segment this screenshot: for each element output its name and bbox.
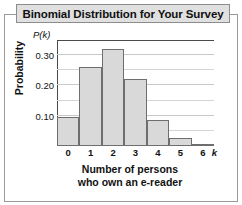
x-tick-labels: 0123456k <box>57 147 214 161</box>
binomial-distribution-figure: Binomial Distribution for Your Survey Pr… <box>0 0 242 205</box>
y-tick-0.30: 0.30 <box>20 50 54 61</box>
x-axis-label-line2: who own an e-reader <box>40 176 220 189</box>
bar-k-6 <box>192 144 214 146</box>
y-tick-0.20: 0.20 <box>20 80 54 91</box>
x-axis-label: Number of persons who own an e-reader <box>40 163 220 189</box>
x-tick-6: 6 <box>193 147 213 158</box>
y-tick-0.10: 0.10 <box>20 110 54 121</box>
chart-title-bar: Binomial Distribution for Your Survey <box>16 4 230 23</box>
x-axis-label-line1: Number of persons <box>40 163 220 176</box>
y-tick-labels: 0.100.200.30 <box>18 40 54 146</box>
x-tick-1: 1 <box>81 147 101 158</box>
chart-title: Binomial Distribution for Your Survey <box>23 8 224 20</box>
bar-k-0 <box>57 117 79 146</box>
x-axis-symbol: k <box>212 147 217 158</box>
bar-k-4 <box>147 120 169 146</box>
y-axis-symbol: P(k) <box>33 29 50 40</box>
bar-k-1 <box>79 67 101 146</box>
plot-area <box>57 40 214 146</box>
bar-k-3 <box>124 79 146 146</box>
bar-k-2 <box>102 49 124 146</box>
bar-k-5 <box>169 138 191 146</box>
x-tick-0: 0 <box>58 147 78 158</box>
x-tick-5: 5 <box>170 147 190 158</box>
x-tick-4: 4 <box>148 147 168 158</box>
gridline <box>57 54 214 55</box>
x-tick-3: 3 <box>126 147 146 158</box>
x-tick-2: 2 <box>103 147 123 158</box>
